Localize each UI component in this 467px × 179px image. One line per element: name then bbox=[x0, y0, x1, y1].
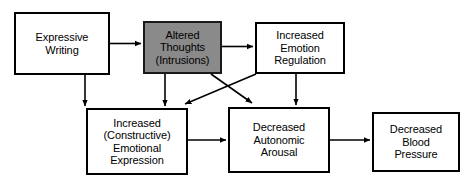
node-label: Increased Emotion Regulation bbox=[272, 29, 328, 67]
edge-emotion-regulation-to-emotional-expression bbox=[185, 74, 256, 104]
node-label: Altered Thoughts (Intrusions) bbox=[154, 29, 212, 67]
node-label: Increased (Constructive) Emotional Expre… bbox=[101, 117, 172, 167]
node-increased-emotion-regulation: Increased Emotion Regulation bbox=[255, 22, 345, 74]
node-altered-thoughts: Altered Thoughts (Intrusions) bbox=[143, 21, 222, 74]
node-label: Expressive Writing bbox=[34, 31, 91, 56]
node-label: Decreased Blood Pressure bbox=[388, 123, 444, 161]
node-label: Decreased Autonomic Arousal bbox=[251, 121, 307, 159]
node-expressive-writing: Expressive Writing bbox=[14, 12, 110, 75]
flowchart-diagram: Expressive Writing Altered Thoughts (Int… bbox=[0, 0, 467, 179]
node-decreased-blood-pressure: Decreased Blood Pressure bbox=[372, 112, 460, 172]
node-increased-emotional-expression: Increased (Constructive) Emotional Expre… bbox=[86, 108, 188, 175]
node-decreased-autonomic-arousal: Decreased Autonomic Arousal bbox=[228, 107, 330, 173]
